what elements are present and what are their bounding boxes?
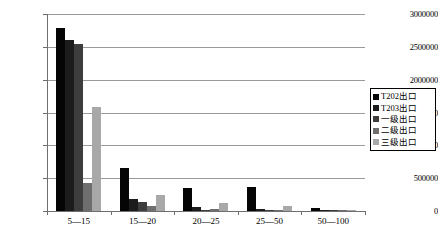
legend-item: 二级出口: [373, 125, 433, 136]
bar-group: [111, 14, 175, 211]
bar: [147, 206, 156, 211]
bar: [247, 187, 256, 211]
y-axis-tick-label: 500000: [394, 174, 438, 183]
bar: [347, 210, 356, 211]
legend-item: T203出口: [373, 102, 433, 113]
x-axis-tick-mark: [47, 211, 48, 215]
bar: [210, 209, 219, 211]
bar: [320, 210, 329, 211]
x-axis-tick-label: 15—20: [111, 216, 175, 227]
legend-swatch-icon: [373, 94, 379, 100]
bar: [311, 208, 320, 211]
x-axis-tick-mark: [111, 211, 112, 215]
legend-label: 二级出口: [381, 126, 417, 135]
legend-item: 三级出口: [373, 137, 433, 148]
x-axis-labels: 5—1515—2020—2525—5050—100: [47, 216, 365, 227]
legend-swatch-icon: [373, 128, 379, 134]
bar: [65, 40, 74, 211]
bar: [74, 44, 83, 211]
bar: [329, 210, 338, 211]
bar: [183, 188, 192, 211]
bar: [56, 28, 65, 211]
x-axis-tick-mark: [365, 211, 366, 215]
bar-group: [47, 14, 111, 211]
bar: [92, 107, 101, 211]
y-axis-tick-label: 2500000: [394, 43, 438, 52]
x-axis-tick-mark: [301, 211, 302, 215]
x-axis-tick-label: 25—50: [238, 216, 302, 227]
legend-swatch-icon: [373, 105, 379, 111]
bar: [265, 210, 274, 211]
x-axis-tick-label: 5—15: [47, 216, 111, 227]
legend-swatch-icon: [373, 116, 379, 122]
legend-label: T203出口: [381, 104, 417, 113]
x-axis-line: [47, 211, 366, 212]
bar: [120, 168, 129, 211]
legend-label: 三级出口: [381, 138, 417, 147]
bar: [83, 183, 92, 211]
legend-item: 一级出口: [373, 114, 433, 125]
bar: [274, 210, 283, 211]
bar: [129, 199, 138, 211]
legend-swatch-icon: [373, 139, 379, 145]
legend-label: T202出口: [381, 92, 417, 101]
chart-legend: T202出口T203出口一级出口二级出口三级出口: [370, 88, 436, 151]
bar: [201, 210, 210, 211]
x-axis-tick-label: 50—100: [301, 216, 365, 227]
bar: [256, 209, 265, 211]
y-axis-tick-label: 3000000: [394, 10, 438, 19]
legend-item: T202出口: [373, 91, 433, 102]
y-axis-tick-label: 2000000: [394, 76, 438, 85]
x-axis-tick-label: 20—25: [174, 216, 238, 227]
bar: [219, 203, 228, 211]
bar: [283, 206, 292, 211]
bar: [156, 195, 165, 211]
bar-groups: [47, 14, 365, 211]
bar-group: [301, 14, 365, 211]
x-axis-tick-mark: [174, 211, 175, 215]
legend-label: 一级出口: [381, 115, 417, 124]
bar-group: [238, 14, 302, 211]
bar-chart: 3000000250000020000001500000100000050000…: [0, 0, 438, 243]
bar: [338, 210, 347, 211]
x-axis-tick-mark: [238, 211, 239, 215]
bar: [192, 207, 201, 211]
bar: [138, 202, 147, 211]
y-axis-tick-label: 0: [394, 207, 438, 216]
bar-group: [174, 14, 238, 211]
